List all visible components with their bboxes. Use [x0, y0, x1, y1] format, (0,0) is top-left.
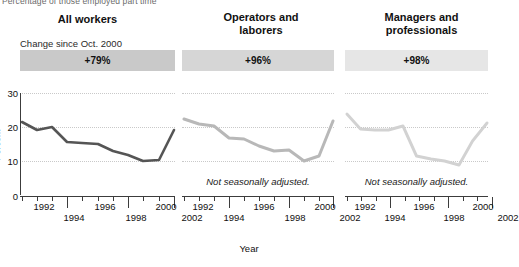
- note-managers: Not seasonally adjusted.: [345, 176, 488, 187]
- change-value-box-operators: +96%: [182, 50, 334, 71]
- x-label-1994: 1994: [384, 212, 405, 223]
- x-label-1992: 1992: [354, 201, 375, 212]
- x-label-1996: 1996: [253, 201, 274, 212]
- x-tick-major: [289, 197, 290, 208]
- panel-title-operators-line1: Operators and: [182, 11, 340, 24]
- x-label-1992: 1992: [192, 201, 213, 212]
- x-axis-managers: 1992 1994 1996 1998 2000 2002: [345, 196, 488, 222]
- x-tick-minor: [82, 197, 83, 201]
- x-tick-major: [67, 197, 68, 208]
- x-label-1994: 1994: [223, 212, 244, 223]
- note-operators: Not seasonally adjusted.: [182, 176, 334, 187]
- change-value-all-workers: +79%: [85, 55, 111, 66]
- x-label-2000: 2000: [155, 201, 176, 212]
- x-tick-minor: [244, 197, 245, 201]
- x-tick-major: [229, 197, 230, 208]
- x-axis-line: [345, 196, 488, 197]
- y-axis-title: Percent: [0, 129, 2, 160]
- series-line-all-workers: [20, 93, 175, 195]
- y-tick-10: 10: [0, 156, 21, 167]
- x-tick-minor: [22, 197, 23, 201]
- y-tick-30: 30: [0, 88, 21, 99]
- change-value-box-all-workers: +79%: [20, 50, 175, 71]
- x-tick-minor: [143, 197, 144, 201]
- x-tick-minor: [347, 197, 348, 201]
- panel-title-operators: Operators and laborers: [182, 11, 340, 36]
- x-label-1996: 1996: [94, 201, 115, 212]
- change-value-operators: +96%: [245, 55, 271, 66]
- x-axis-line: [182, 196, 334, 197]
- change-since-label: Change since Oct. 2000: [20, 38, 122, 49]
- panel-title-managers-line2: professionals: [345, 24, 498, 37]
- x-axis-all-workers: 1992 1994 1996 1998 2000 2002: [20, 196, 175, 222]
- x-label-1992: 1992: [33, 201, 54, 212]
- change-value-box-managers: +98%: [345, 50, 488, 71]
- panel-all-workers: All workers Change since Oct. 2000 +79% …: [0, 0, 175, 267]
- x-tick-major: [390, 197, 391, 208]
- plot-area-all-workers: [20, 93, 175, 195]
- x-tick-minor: [214, 197, 215, 201]
- panel-managers-and-professionals: Managers and professionals +98% Not seas…: [345, 0, 498, 267]
- x-tick-major: [128, 197, 129, 208]
- panel-title-operators-line2: laborers: [182, 24, 340, 37]
- panel-title-managers-line1: Managers and: [345, 11, 498, 24]
- panel-title-all-workers: All workers: [0, 13, 175, 26]
- panel-title-managers: Managers and professionals: [345, 11, 498, 36]
- x-tick-minor: [405, 197, 406, 201]
- x-label-2000: 2000: [472, 201, 493, 212]
- x-tick-minor: [304, 197, 305, 201]
- change-value-managers: +98%: [404, 55, 430, 66]
- x-label-1998: 1998: [443, 212, 464, 223]
- y-tick-0: 0: [0, 191, 21, 202]
- x-axis-operators: 1992 1994 1996 1998 2000 2002: [182, 196, 334, 222]
- x-label-1998: 1998: [125, 212, 146, 223]
- x-label-1996: 1996: [413, 201, 434, 212]
- x-tick-minor: [463, 197, 464, 201]
- x-label-2000: 2000: [314, 201, 335, 212]
- panel-operators-and-laborers: Operators and laborers +96% Not seasonal…: [182, 0, 340, 267]
- x-label-1994: 1994: [63, 212, 84, 223]
- x-axis-title: Year: [0, 243, 498, 254]
- y-axis-line: [20, 93, 21, 195]
- x-tick-major: [448, 197, 449, 208]
- x-tick-minor: [376, 197, 377, 201]
- x-tick-minor: [184, 197, 185, 201]
- x-label-1998: 1998: [284, 212, 305, 223]
- y-tick-20: 20: [0, 122, 21, 133]
- x-label-2002: 2002: [497, 212, 518, 223]
